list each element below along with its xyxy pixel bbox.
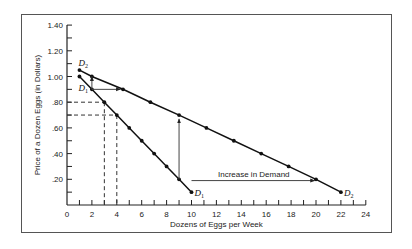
data-point [190, 190, 194, 194]
x-tick-label: 24 [361, 210, 370, 219]
data-point [121, 87, 125, 91]
data-point [102, 100, 106, 104]
data-point [78, 75, 82, 79]
data-point [127, 126, 131, 130]
curve-label-d2-start: D2 [77, 58, 88, 69]
data-point [78, 68, 82, 72]
y-tick-label: 1.00 [47, 73, 63, 82]
x-tick-label: 18 [287, 210, 296, 219]
data-point [339, 190, 343, 194]
x-tick-label: 10 [187, 210, 196, 219]
y-tick-label: .20 [52, 175, 64, 184]
demand-curves [78, 68, 343, 194]
x-axis-title: Dozens of Eggs per Week [170, 220, 264, 229]
data-point [165, 165, 169, 169]
data-point [115, 113, 119, 117]
x-tick-label: 12 [212, 210, 221, 219]
curve-label-d2-end: D2 [343, 188, 354, 199]
shift-arrows [92, 77, 315, 181]
y-tick-label: 1.40 [47, 21, 63, 30]
data-point [259, 152, 263, 156]
x-tick-label: 14 [237, 210, 246, 219]
y-tick-label: 1.20 [47, 47, 63, 56]
data-point [149, 100, 153, 104]
y-tick-label: .40 [52, 150, 64, 159]
increase-in-demand-label: Increase in Demand [218, 170, 290, 179]
y-tick-label: .60 [52, 124, 64, 133]
data-point [232, 139, 236, 143]
data-point [205, 126, 209, 130]
y-axis-title: Price of a Dozen Eggs (in Dollars) [33, 54, 42, 175]
x-tick-label: 16 [262, 210, 271, 219]
demand-curve-d1 [80, 77, 192, 193]
x-tick-label: 4 [115, 210, 120, 219]
dashed-guides [67, 102, 117, 205]
x-tick-label: 6 [139, 210, 144, 219]
demand-curve-d2 [80, 70, 341, 192]
x-tick-label: 20 [312, 210, 321, 219]
curve-label-d1-end: D1 [194, 188, 205, 199]
data-point [287, 165, 291, 169]
data-point [140, 139, 144, 143]
y-tick-label: .80 [52, 98, 64, 107]
x-tick-label: 0 [65, 210, 70, 219]
x-tick-label: 2 [90, 210, 95, 219]
x-tick-label: 8 [164, 210, 169, 219]
demand-chart: 024681012141618202224.20.40.60.801.001.2… [0, 0, 412, 249]
data-point [177, 113, 181, 117]
x-tick-label: 22 [336, 210, 345, 219]
data-point [152, 152, 156, 156]
